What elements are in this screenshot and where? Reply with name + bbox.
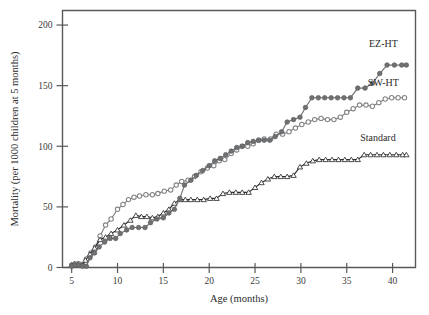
- data-point-marker: [161, 216, 166, 221]
- series-line: [72, 155, 407, 265]
- data-point-marker: [306, 120, 310, 124]
- data-point-marker: [329, 95, 334, 100]
- y-tick-label: 200: [38, 20, 53, 30]
- data-point-marker: [223, 152, 228, 157]
- data-point-marker: [194, 173, 199, 178]
- data-point-marker: [256, 138, 261, 143]
- data-point-marker: [150, 193, 154, 197]
- data-point-marker: [121, 202, 125, 206]
- data-point-marker: [167, 211, 172, 216]
- data-point-marker: [124, 228, 129, 233]
- data-point-marker: [155, 217, 160, 222]
- x-tick-label: 10: [113, 276, 123, 286]
- data-point-marker: [303, 105, 308, 110]
- series-layer: [69, 63, 409, 269]
- data-point-marker: [273, 134, 278, 139]
- data-point-marker: [84, 264, 89, 269]
- data-point-marker: [162, 189, 166, 193]
- x-tick-label: 35: [342, 276, 352, 286]
- x-tick-label: 40: [388, 276, 398, 286]
- data-point-marker: [156, 191, 160, 195]
- series-line: [72, 98, 405, 265]
- series-label-ez-ht: EZ-HT: [369, 38, 398, 49]
- series-sw-ht: [69, 96, 406, 268]
- data-point-marker: [293, 126, 297, 130]
- y-tick-label: 150: [38, 81, 53, 91]
- data-point-marker: [218, 156, 223, 161]
- data-point-marker: [322, 95, 327, 100]
- data-point-marker: [285, 120, 290, 125]
- data-point-marker: [297, 164, 302, 169]
- y-tick-label: 0: [48, 263, 53, 273]
- data-point-marker: [300, 122, 304, 126]
- data-point-marker: [291, 117, 296, 122]
- data-point-marker: [182, 183, 187, 188]
- data-point-marker: [348, 95, 353, 100]
- data-point-marker: [404, 63, 409, 68]
- data-point-marker: [133, 213, 138, 218]
- data-point-marker: [332, 117, 336, 121]
- data-point-marker: [377, 71, 382, 76]
- data-point-marker: [325, 117, 329, 121]
- series-ez-ht: [69, 63, 408, 269]
- data-point-marker: [259, 180, 264, 185]
- data-point-marker: [370, 104, 374, 108]
- data-point-marker: [168, 188, 172, 192]
- data-point-marker: [126, 197, 130, 201]
- data-point-marker: [345, 110, 349, 114]
- series-label-sw-ht: SW-HT: [368, 77, 399, 88]
- data-point-marker: [108, 236, 113, 241]
- data-point-marker: [137, 194, 141, 198]
- data-point-marker: [132, 195, 136, 199]
- data-point-marker: [92, 251, 97, 256]
- data-point-marker: [143, 225, 148, 230]
- data-point-marker: [207, 163, 212, 168]
- x-tick-label: 30: [296, 276, 306, 286]
- data-point-marker: [172, 207, 177, 212]
- mortality-line-chart: 050100150200 510152025303540 EZ-HTSW-HTS…: [0, 0, 429, 315]
- x-axis-ticks: 510152025303540: [69, 263, 397, 286]
- x-tick-label: 20: [204, 276, 214, 286]
- data-point-marker: [251, 139, 256, 144]
- data-point-marker: [357, 103, 361, 107]
- data-point-marker: [102, 240, 107, 245]
- y-axis-ticks: 050100150200: [38, 20, 68, 272]
- data-point-marker: [88, 255, 93, 260]
- data-point-marker: [312, 117, 316, 121]
- data-point-marker: [136, 225, 141, 230]
- data-point-marker: [240, 144, 245, 149]
- chart-figure: 050100150200 510152025303540 EZ-HTSW-HTS…: [0, 0, 429, 315]
- data-point-marker: [178, 196, 183, 201]
- data-point-marker: [402, 96, 406, 100]
- data-point-marker: [310, 95, 315, 100]
- data-point-marker: [389, 96, 393, 100]
- data-point-marker: [234, 145, 239, 150]
- data-point-marker: [267, 138, 272, 143]
- x-tick-label: 25: [250, 276, 260, 286]
- data-point-marker: [103, 223, 107, 227]
- series-labels: EZ-HTSW-HTStandard: [360, 38, 399, 144]
- data-point-marker: [245, 140, 250, 145]
- data-point-marker: [189, 178, 194, 183]
- data-point-marker: [223, 157, 227, 161]
- y-axis-title: Mortality (per 1000 children at 5 months…: [9, 51, 21, 226]
- data-point-marker: [262, 138, 267, 143]
- data-point-marker: [108, 231, 113, 236]
- series-label-standard: Standard: [360, 132, 396, 143]
- data-point-marker: [174, 183, 178, 187]
- data-point-marker: [392, 63, 397, 68]
- data-point-marker: [229, 149, 234, 154]
- data-point-marker: [113, 236, 118, 241]
- data-point-marker: [319, 116, 323, 120]
- data-point-marker: [383, 97, 387, 101]
- data-point-marker: [212, 163, 216, 167]
- data-point-marker: [363, 86, 368, 91]
- x-tick-label: 15: [159, 276, 169, 286]
- data-point-marker: [200, 168, 205, 173]
- y-tick-label: 50: [43, 202, 53, 212]
- data-point-marker: [396, 96, 400, 100]
- data-point-marker: [118, 231, 123, 236]
- data-point-marker: [279, 129, 284, 134]
- y-tick-label: 100: [38, 142, 53, 152]
- data-point-marker: [364, 103, 368, 107]
